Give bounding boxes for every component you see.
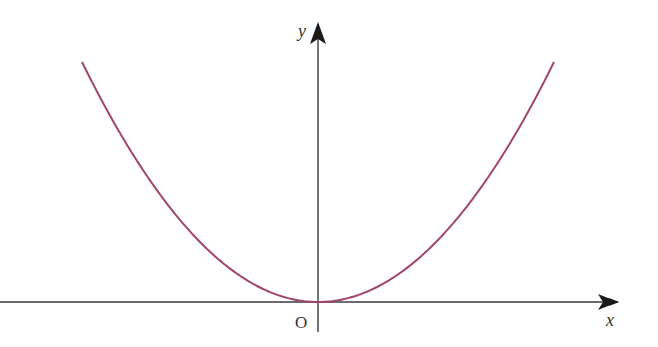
x-axis-label: x (605, 310, 614, 330)
parabola-graph: y x O (0, 0, 658, 347)
y-axis-label: y (296, 21, 306, 41)
origin-label: O (295, 313, 307, 332)
